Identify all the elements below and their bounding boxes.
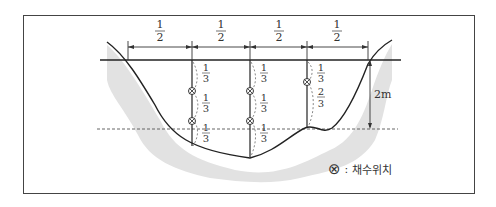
svg-text:2: 2 [218,31,225,44]
sample-point-icon [304,79,311,86]
sample-point-legend-icon: ⊗ [328,160,341,178]
svg-text:1: 1 [318,62,324,73]
svg-text:2m: 2m [374,88,392,101]
svg-text:1: 1 [261,122,267,133]
legend: ⊗ : 채수위치 [328,160,392,178]
svg-text:1: 1 [276,18,283,31]
svg-text:3: 3 [261,133,267,144]
svg-text:3: 3 [261,73,267,84]
sampling-vertical-2: 1 3 1 3 1 3 [247,60,269,157]
svg-text:2: 2 [318,86,324,97]
diagram-canvas: 1 2 1 2 1 2 1 2 1 3 1 3 1 3 [0,0,496,207]
division-labels: 1 2 1 2 1 2 1 2 [155,18,342,44]
svg-text:1: 1 [203,62,209,73]
sample-point-icon [189,88,196,95]
svg-text:3: 3 [203,103,209,114]
svg-text:1: 1 [261,92,267,103]
sampling-vertical-1: 1 3 1 3 1 3 [189,60,211,146]
legend-label: 채수위치 [352,161,392,177]
svg-text:2: 2 [334,31,341,44]
svg-text:1: 1 [203,122,209,133]
svg-text:1: 1 [157,18,164,31]
svg-text:3: 3 [318,73,324,84]
sample-point-icon [247,88,254,95]
svg-text:1: 1 [203,92,209,103]
width-dimension [128,41,368,60]
svg-text:2: 2 [157,31,164,44]
legend-separator: : [345,163,349,176]
sampling-vertical-3: 1 3 2 3 [304,60,326,127]
svg-text:3: 3 [203,73,209,84]
svg-text:3: 3 [203,133,209,144]
svg-text:2: 2 [276,31,283,44]
svg-text:3: 3 [318,98,324,109]
sample-point-icon [189,118,196,125]
svg-text:1: 1 [218,18,225,31]
diagram-frame [24,16,475,194]
svg-text:1: 1 [261,62,267,73]
svg-text:3: 3 [261,103,267,114]
sample-point-icon [247,118,254,125]
svg-text:1: 1 [334,18,341,31]
